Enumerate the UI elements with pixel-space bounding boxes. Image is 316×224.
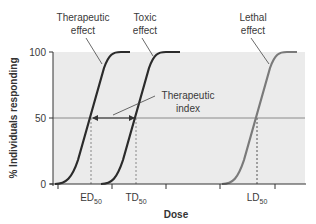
xtick-td50: TD50 bbox=[125, 192, 146, 205]
y-axis-label: % Individuals responding bbox=[8, 57, 19, 178]
ytick-100: 100 bbox=[29, 47, 46, 58]
toxic-effect-label-2: effect bbox=[133, 25, 157, 36]
x-axis-label: Dose bbox=[164, 209, 189, 220]
therapeutic-effect-label-2: effect bbox=[71, 25, 95, 36]
xtick-ed50: ED50 bbox=[80, 192, 102, 205]
therapeutic-index-label-2: index bbox=[176, 103, 200, 114]
ytick-0: 0 bbox=[40, 179, 46, 190]
lethal-effect-label: Lethal bbox=[239, 12, 266, 23]
toxic-effect-label: Toxic bbox=[134, 12, 157, 23]
therapeutic-index-label: Therapeutic bbox=[162, 90, 215, 101]
therapeutic-effect-label: Therapeutic bbox=[57, 12, 110, 23]
dose-response-chart: 100 50 0 ED50 TD50 LD50 Dose % Individua… bbox=[0, 0, 316, 224]
lethal-effect-label-2: effect bbox=[241, 25, 265, 36]
xtick-ld50: LD50 bbox=[247, 192, 268, 205]
ytick-50: 50 bbox=[35, 113, 47, 124]
